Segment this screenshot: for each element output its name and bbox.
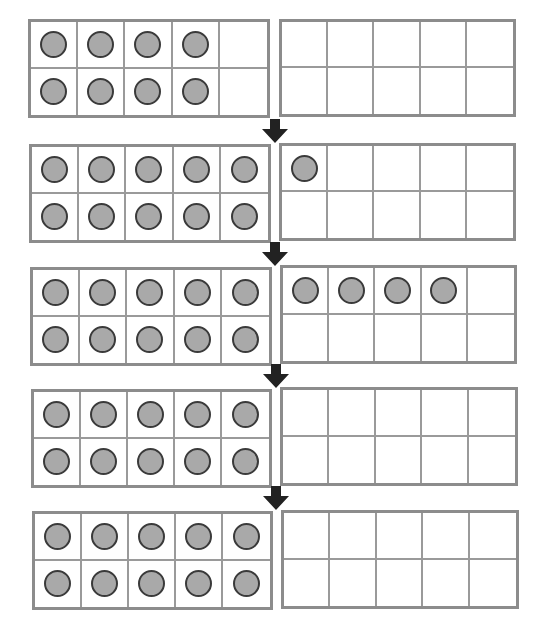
counter-dot	[88, 156, 115, 183]
ten-frame-cell	[173, 22, 220, 69]
counter-dot	[138, 570, 165, 597]
counter-dot	[182, 78, 209, 105]
ten-frame-right-5	[281, 510, 519, 609]
ten-frame-cell	[221, 147, 268, 194]
counter-dot	[231, 203, 258, 230]
ten-frame-cell	[126, 194, 173, 241]
ten-frame-left-1	[28, 19, 270, 118]
ten-frame-cell	[375, 315, 421, 362]
ten-frame-cell	[468, 268, 514, 315]
ten-frame-right-1	[279, 19, 516, 117]
ten-frame-cell	[126, 147, 173, 194]
ten-frame-cell	[283, 390, 329, 437]
ten-frame-cell	[328, 22, 374, 68]
counter-dot	[292, 277, 319, 304]
ten-frame-left-5	[32, 511, 273, 610]
ten-frame-cell	[329, 437, 375, 484]
counter-dot	[137, 401, 164, 428]
ten-frame-cell	[376, 437, 422, 484]
counter-dot	[184, 401, 211, 428]
ten-frame-cell	[422, 315, 468, 362]
counter-dot	[41, 203, 68, 230]
ten-frame-cell	[422, 268, 468, 315]
ten-frame-cell	[129, 514, 176, 561]
ten-frame-cell	[330, 513, 376, 560]
ten-frame-cell	[127, 317, 174, 364]
ten-frame-cell	[80, 317, 127, 364]
ten-frame-cell	[375, 268, 421, 315]
ten-frame-cell	[470, 560, 516, 607]
counter-dot	[232, 326, 259, 353]
down-arrow-icon	[262, 242, 288, 266]
ten-frame-cell	[128, 392, 175, 439]
ten-frame-cell	[129, 561, 176, 608]
ten-frame-cell	[175, 270, 222, 317]
ten-frame-cell	[283, 315, 329, 362]
ten-frame-cell	[31, 22, 78, 69]
counter-dot	[182, 31, 209, 58]
counter-dot	[232, 401, 259, 428]
counter-dot	[233, 570, 260, 597]
ten-frame-cell	[467, 192, 513, 238]
ten-frame-cell	[222, 392, 269, 439]
ten-frame-cell	[125, 22, 172, 69]
ten-frame-cell	[33, 270, 80, 317]
ten-frame-cell	[374, 146, 420, 192]
ten-frame-cell	[284, 560, 330, 607]
counter-dot	[42, 279, 69, 306]
counter-dot	[87, 78, 114, 105]
counter-dot	[90, 448, 117, 475]
ten-frame-cell	[421, 192, 467, 238]
ten-frame-cell	[284, 513, 330, 560]
ten-frame-cell	[35, 514, 82, 561]
counter-dot	[90, 401, 117, 428]
ten-frame-cell	[421, 68, 467, 114]
counter-dot	[40, 78, 67, 105]
ten-frame-cell	[31, 69, 78, 116]
counter-dot	[135, 203, 162, 230]
ten-frame-cell	[421, 146, 467, 192]
ten-frame-cell	[328, 146, 374, 192]
ten-frame-cell	[421, 22, 467, 68]
ten-frame-cell	[423, 513, 469, 560]
ten-frame-cell	[81, 392, 128, 439]
ten-frame-left-2	[29, 144, 271, 243]
ten-frame-cell	[125, 69, 172, 116]
ten-frame-cell	[175, 439, 222, 486]
ten-frame-cell	[220, 22, 267, 69]
counter-dot	[138, 523, 165, 550]
ten-frame-cell	[82, 561, 129, 608]
ten-frame-cell	[469, 437, 515, 484]
counter-dot	[41, 156, 68, 183]
ten-frame-cell	[376, 390, 422, 437]
ten-frame-cell	[329, 315, 375, 362]
counter-dot	[231, 156, 258, 183]
ten-frame-right-3	[280, 265, 517, 364]
counter-dot	[43, 401, 70, 428]
ten-frame-right-2	[279, 143, 516, 241]
ten-frame-cell	[283, 268, 329, 315]
counter-dot	[87, 31, 114, 58]
counter-dot	[430, 277, 457, 304]
counter-dot	[185, 570, 212, 597]
ten-frame-cell	[80, 270, 127, 317]
ten-frame-left-4	[31, 389, 272, 488]
ten-frame-cell	[79, 194, 126, 241]
counter-dot	[233, 523, 260, 550]
down-arrow-icon	[263, 364, 289, 388]
counter-dot	[137, 448, 164, 475]
ten-frame-cell	[223, 514, 270, 561]
ten-frame-cell	[33, 317, 80, 364]
ten-frame-cell	[470, 513, 516, 560]
ten-frame-cell	[283, 437, 329, 484]
counter-dot	[40, 31, 67, 58]
counter-dot	[185, 523, 212, 550]
ten-frame-cell	[282, 68, 328, 114]
ten-frame-cell	[330, 560, 376, 607]
ten-frame-cell	[222, 317, 269, 364]
ten-frame-cell	[222, 439, 269, 486]
ten-frame-cell	[79, 147, 126, 194]
counter-dot	[183, 203, 210, 230]
counter-dot	[184, 448, 211, 475]
ten-frame-cell	[175, 392, 222, 439]
